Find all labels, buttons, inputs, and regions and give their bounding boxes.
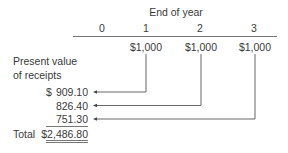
pv-year-1: 909.10 xyxy=(50,87,88,98)
year-label-2: 2 xyxy=(197,23,203,34)
year-label-1: 1 xyxy=(143,23,149,34)
pv-year-2: 826.40 xyxy=(50,101,88,112)
cashflow-year-3: $1,000 xyxy=(239,42,271,53)
left-label-line2: of receipts xyxy=(13,70,61,81)
header-title: End of year xyxy=(149,7,203,18)
year-label-3: 3 xyxy=(251,23,257,34)
total-value: $2,486.80 xyxy=(40,129,88,140)
connector-year-3 xyxy=(96,54,255,119)
left-label-line1: Present value xyxy=(13,56,77,67)
connector-year-2 xyxy=(96,54,201,106)
cashflow-year-1: $1,000 xyxy=(130,42,162,53)
total-label: Total xyxy=(13,129,35,140)
arrow-icon xyxy=(93,90,97,93)
pv-year-3: 751.30 xyxy=(50,114,88,125)
year-label-0: 0 xyxy=(99,23,105,34)
arrow-icon xyxy=(93,104,97,107)
cashflow-year-2: $1,000 xyxy=(185,42,217,53)
connector-year-1 xyxy=(96,54,146,92)
arrow-icon xyxy=(93,117,97,120)
